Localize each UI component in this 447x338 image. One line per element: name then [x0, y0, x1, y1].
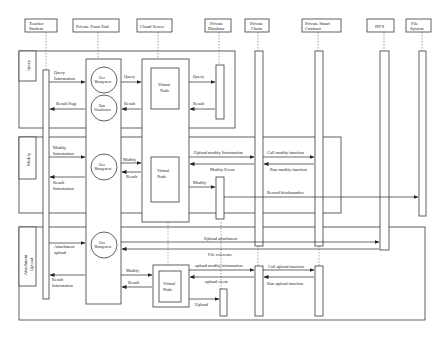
svg-text:Cloud Server: Cloud Server: [140, 24, 165, 29]
svg-text:Virtual: Virtual: [157, 168, 170, 173]
svg-text:IPFS: IPFS: [375, 24, 385, 29]
svg-text:upload modify information: upload modify information: [195, 263, 243, 268]
svg-text:Contract: Contract: [305, 26, 322, 31]
svg-text:Node: Node: [163, 287, 173, 292]
svg-text:Virtual: Virtual: [163, 281, 176, 286]
svg-text:Run upload function: Run upload function: [267, 281, 304, 286]
svg-text:Management: Management: [95, 80, 112, 84]
svg-text:upload event: upload event: [205, 279, 228, 284]
svg-text:Private Front End: Private Front End: [76, 24, 109, 29]
svg-text:Teacher: Teacher: [29, 21, 44, 26]
svg-text:Private: Private: [210, 21, 223, 26]
svg-text:Visualization: Visualization: [94, 108, 111, 112]
data-visualization: Data Visualization: [91, 95, 117, 121]
svg-text:Record blocknumber: Record blocknumber: [267, 190, 304, 195]
sequence-diagram: Teacher Student Private Front End Cloud …: [0, 0, 447, 338]
svg-text:File reference: File reference: [208, 252, 232, 257]
svg-text:Modify: Modify: [126, 268, 140, 273]
svg-text:System: System: [410, 26, 424, 31]
participant-ipfs: IPFS: [367, 19, 394, 32]
user-management-query: User Management: [91, 67, 117, 93]
svg-text:Private: Private: [250, 21, 263, 26]
participant-teacher: Teacher Student: [25, 19, 57, 32]
svg-text:Result: Result: [126, 174, 138, 179]
svg-text:Result Page: Result Page: [56, 101, 77, 106]
svg-text:Result: Result: [53, 180, 65, 185]
svg-text:File: File: [411, 21, 418, 26]
participant-contract: Private Smart Contract: [302, 19, 341, 32]
virtual-node-query: Virtual Node: [151, 68, 179, 109]
participant-chain: Private Chain: [245, 19, 269, 32]
svg-text:Node: Node: [160, 88, 170, 93]
svg-text:Attachment: Attachment: [23, 254, 28, 275]
svg-text:Management: Management: [95, 245, 112, 249]
svg-text:Result: Result: [193, 101, 205, 106]
participant-frontend: Private Front End: [73, 19, 119, 32]
svg-text:Run modify function: Run modify function: [270, 167, 308, 172]
participant-cloud: Cloud Server: [137, 19, 172, 32]
svg-text:Result: Result: [52, 277, 64, 282]
svg-text:Information: Information: [53, 151, 75, 156]
svg-text:Query: Query: [193, 74, 205, 79]
svg-text:Modify: Modify: [123, 157, 137, 162]
svg-text:Modify Event: Modify Event: [210, 167, 235, 172]
virtual-node-upload: Virtual Node: [159, 271, 181, 302]
svg-text:Result: Result: [128, 280, 140, 285]
svg-text:Node: Node: [157, 174, 167, 179]
svg-text:Database: Database: [208, 26, 225, 31]
svg-text:Private Smart: Private Smart: [305, 21, 331, 26]
participant-database: Private Database: [205, 19, 231, 32]
svg-text:Upload attachment: Upload attachment: [204, 236, 238, 241]
user-management-upload: User Management: [91, 232, 117, 258]
svg-text:Query: Query: [124, 74, 136, 79]
participant-filesystem: File System: [406, 19, 431, 32]
svg-text:Upload: Upload: [195, 302, 209, 307]
svg-text:Query: Query: [54, 70, 66, 75]
svg-text:Upload: Upload: [29, 257, 34, 271]
svg-text:Call upload function: Call upload function: [268, 264, 305, 269]
virtual-node-modify: Virtual Node: [151, 157, 179, 202]
svg-text:Information: Information: [53, 186, 75, 191]
svg-text:Result: Result: [124, 101, 136, 106]
svg-text:Call modify function: Call modify function: [267, 150, 305, 155]
svg-text:Modify: Modify: [193, 180, 207, 185]
svg-text:Attachment: Attachment: [54, 244, 75, 249]
svg-text:Chain: Chain: [251, 26, 263, 31]
svg-text:Information: Information: [54, 76, 76, 81]
svg-text:Virtual: Virtual: [158, 82, 171, 87]
frame-query: Query: [19, 51, 235, 128]
svg-text:Upload modify Information: Upload modify Information: [194, 150, 244, 155]
svg-text:Student: Student: [29, 26, 44, 31]
svg-text:Query: Query: [26, 59, 31, 71]
svg-text:Modify: Modify: [26, 152, 31, 166]
svg-text:Information: Information: [52, 283, 74, 288]
svg-text:Management: Management: [95, 167, 112, 171]
query-messages: Query Information Query Query Result Pag…: [49, 70, 215, 109]
svg-text:Modify: Modify: [53, 145, 67, 150]
svg-text:upload: upload: [54, 250, 67, 255]
user-management-modify: User Management: [91, 154, 117, 180]
